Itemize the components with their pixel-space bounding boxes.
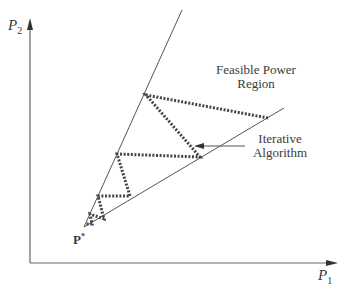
region-label-line2: Region bbox=[206, 77, 306, 91]
x-axis-arrow-icon bbox=[326, 260, 338, 266]
region-label: Feasible Power Region bbox=[206, 63, 306, 91]
algorithm-label: Iterative Algorithm bbox=[245, 132, 315, 160]
x-axis bbox=[30, 260, 338, 266]
pointer-arrow-icon bbox=[194, 143, 204, 149]
y-axis-label: P2 bbox=[8, 18, 22, 36]
y-axis bbox=[27, 18, 33, 263]
optimal-point-label: P* bbox=[73, 233, 85, 246]
algorithm-label-line2: Algorithm bbox=[245, 146, 315, 160]
algorithm-pointer bbox=[194, 143, 245, 149]
iterative-path bbox=[86, 95, 268, 224]
algorithm-label-line1: Iterative bbox=[245, 132, 315, 146]
y-axis-arrow-icon bbox=[27, 18, 33, 30]
x-axis-label: P1 bbox=[318, 268, 332, 286]
region-label-line1: Feasible Power bbox=[206, 63, 306, 77]
lower-boundary-line bbox=[84, 108, 284, 227]
